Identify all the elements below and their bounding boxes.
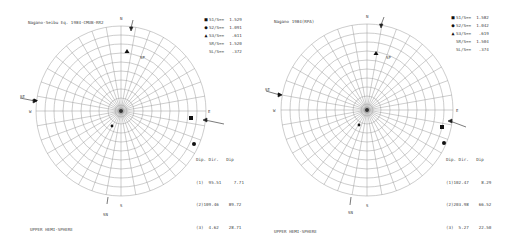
projection-footer: UPPER HEMI-SPHERE EQUAL ANGLE PROJECTION — [20, 210, 75, 239]
results-row: (2)109.46 89.72 — [196, 201, 244, 209]
results-row: (2)203.98 66.52 — [446, 201, 491, 209]
projection-footer: UPPER HEMI-SPHERE EQUAL ANGLE PROJECTION — [264, 212, 319, 239]
mark-sp: SP — [386, 55, 391, 60]
mark-se: SE — [265, 87, 270, 92]
direction-north: N — [120, 16, 122, 21]
legend-item: ●S2/S== 1.091 — [203, 25, 242, 30]
hemisphere-label: UPPER HEMI-SPHERE — [264, 228, 319, 236]
results-row: (1)102.47 8.29 — [446, 179, 491, 187]
direction-east: E — [456, 108, 458, 113]
direction-north: N — [366, 14, 368, 19]
legend-item: ●S2/S== 1.042 — [450, 23, 489, 28]
results-header: Dip. Dir. Dip — [196, 156, 244, 164]
results-row: (1) 95.51 7.71 — [196, 179, 244, 187]
legend-item: ▲S3/S== .611 — [203, 33, 242, 38]
results-header: Dip. Dir. Dip — [446, 156, 491, 164]
results-table: Dip. Dir. Dip (1) 95.51 7.71 (2)109.46 8… — [196, 141, 244, 239]
legend-item: ■S1/S== 1.529 — [203, 17, 242, 22]
stereonet-panel-right: Nagano 1984(RPA) N S E W SE SP SN ■S1/S=… — [254, 0, 508, 239]
mark-sp: SP — [140, 55, 145, 60]
legend-item: SR/S== 1.520 — [203, 41, 242, 46]
mark-se: SE — [20, 94, 25, 99]
results-row: (3) 4.62 28.71 — [196, 224, 244, 232]
legend-item: SR/S== 1.504 — [450, 39, 489, 44]
direction-west: W — [273, 108, 275, 113]
legend-item: ■S1/S== 1.582 — [450, 15, 489, 20]
plot-title: Nagano 1984(RPA) — [274, 19, 314, 24]
mark-sn: SN — [103, 212, 108, 217]
legend-item: SL/S== .372 — [203, 49, 242, 54]
direction-west: W — [29, 109, 31, 114]
legend-item: ▲S3/S== .619 — [450, 31, 489, 36]
hemisphere-label: UPPER HEMI-SPHERE — [20, 226, 75, 234]
plot-title: Nagano-Seibu Eq. 1984-CMUB-RR2 — [28, 20, 104, 25]
direction-south: S — [120, 203, 122, 208]
results-row: (3) 5.27 22.50 — [446, 224, 491, 232]
mark-sn: SN — [348, 210, 353, 215]
results-table: Dip. Dir. Dip (1)102.47 8.29 (2)203.98 6… — [446, 141, 491, 239]
stereonet-panel-left: Nagano-Seibu Eq. 1984-CMUB-RR2 N S E W S… — [0, 0, 254, 239]
legend-item: SL/S== .374 — [450, 47, 489, 52]
direction-south: S — [366, 203, 368, 208]
direction-east: E — [208, 109, 210, 114]
